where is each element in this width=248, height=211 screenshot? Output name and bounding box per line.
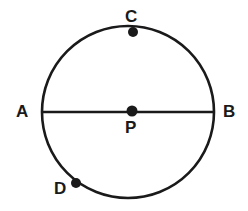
point-marker-p [127, 106, 138, 117]
point-label-a: A [16, 103, 28, 120]
point-label-p: P [125, 119, 136, 136]
point-marker-c [128, 27, 138, 37]
point-label-c: C [125, 8, 137, 25]
circle-diagram-canvas [0, 0, 248, 211]
geometry-figure: A B C D P [0, 0, 248, 211]
point-label-d: D [54, 180, 66, 197]
point-marker-d [71, 178, 81, 188]
point-label-b: B [223, 103, 235, 120]
